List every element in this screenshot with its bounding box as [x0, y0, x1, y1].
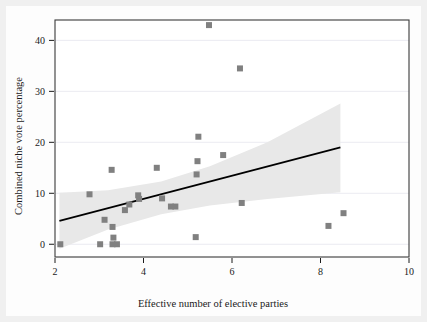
data-point-marker: [194, 171, 200, 177]
data-point-marker: [154, 165, 160, 171]
y-tick-label-30: 30: [35, 86, 45, 97]
x-axis-label: Effective number of elective parties: [138, 298, 288, 309]
figure-canvas: 246810 010203040 Effective number of ele…: [6, 6, 421, 316]
data-point-marker: [114, 241, 120, 247]
x-tick-label-2: 2: [53, 266, 58, 277]
data-point-marker: [110, 235, 116, 241]
data-point-marker: [126, 202, 132, 208]
data-point-marker: [195, 134, 201, 140]
x-tick-label-10: 10: [404, 266, 414, 277]
y-tick-label-0: 0: [40, 239, 45, 250]
x-tick-label-4: 4: [141, 266, 146, 277]
data-point-marker: [206, 22, 212, 28]
data-point-marker: [325, 223, 331, 229]
y-tick-label-40: 40: [35, 35, 45, 46]
data-point-marker: [194, 158, 200, 164]
y-tick-label-20: 20: [35, 137, 45, 148]
x-axis-ticks: 246810: [53, 258, 415, 277]
data-point-marker: [136, 196, 142, 202]
scatter-plot: 246810 010203040 Effective number of ele…: [6, 6, 421, 316]
data-point-marker: [122, 207, 128, 213]
y-axis-label: Combined niche vote percentage: [13, 77, 24, 215]
x-tick-label-6: 6: [230, 266, 235, 277]
data-point-marker: [237, 65, 243, 71]
data-point-marker: [159, 195, 165, 201]
data-point-marker: [172, 204, 178, 210]
data-point-marker: [109, 167, 115, 173]
data-point-marker: [193, 234, 199, 240]
data-point-marker: [341, 210, 347, 216]
data-point-marker: [239, 200, 245, 206]
data-point-marker: [110, 224, 116, 230]
data-point-marker: [97, 241, 103, 247]
data-point-marker: [220, 152, 226, 158]
y-axis-ticks: 010203040: [35, 35, 54, 250]
data-point-marker: [57, 241, 63, 247]
data-point-marker: [102, 217, 108, 223]
x-tick-label-8: 8: [318, 266, 323, 277]
y-tick-label-10: 10: [35, 188, 45, 199]
data-point-marker: [87, 191, 93, 197]
figure-container: 246810 010203040 Effective number of ele…: [0, 0, 427, 322]
